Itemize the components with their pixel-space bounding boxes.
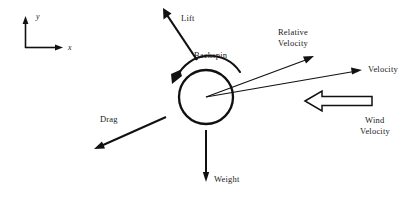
backspin-arrowhead <box>171 70 182 84</box>
relative-velocity-label-line2: Velocity <box>278 38 308 48</box>
velocity-shaft <box>206 72 354 98</box>
lift-label: Lift <box>181 13 195 23</box>
x-axis-label: x <box>68 43 72 53</box>
weight-arrowhead <box>203 172 209 182</box>
coordinate-axes <box>23 16 63 50</box>
velocity-label: Velocity <box>368 64 398 74</box>
weight-label: Weight <box>214 174 240 184</box>
drag-label: Drag <box>100 114 118 124</box>
wind-velocity-block-arrow <box>305 91 372 111</box>
drag-arrowhead <box>94 142 105 150</box>
x-axis-arrowhead <box>55 45 63 51</box>
relative-velocity-label-line1: Relative <box>278 27 308 37</box>
y-axis-arrowhead <box>23 16 29 24</box>
diagram-svg <box>0 0 414 197</box>
backspin-label: Backspin <box>194 50 227 60</box>
wind-velocity-label-line1: Wind <box>365 115 384 125</box>
y-axis-label: y <box>36 12 40 22</box>
lift-arrowhead <box>163 8 172 20</box>
weight-vector <box>203 130 209 182</box>
relative-velocity-shaft <box>206 60 307 98</box>
relative-velocity-arrowhead <box>303 56 314 64</box>
diagram-canvas: y x Lift Backspin Relative Velocity Velo… <box>0 0 414 197</box>
wind-velocity-label-line2: Velocity <box>360 126 390 136</box>
velocity-arrowhead <box>351 68 362 75</box>
